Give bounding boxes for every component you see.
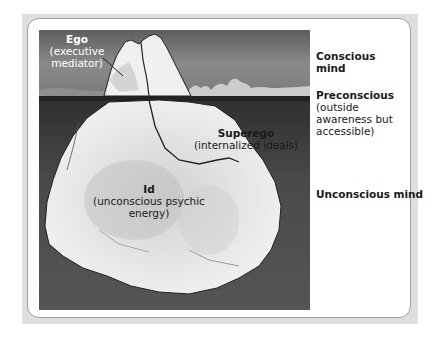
unconscious-mind-label: Unconscious mind: [316, 188, 426, 200]
iceberg-illustration: [39, 30, 310, 310]
superego-subtitle: (internalized ideals): [186, 139, 306, 151]
superego-label: Superego (internalized ideals): [186, 127, 306, 151]
unconscious-title: Unconscious mind: [316, 188, 426, 200]
conscious-mind-label: Conscious mind: [316, 50, 386, 74]
id-label: Id (unconscious psychic energy): [80, 183, 218, 219]
preconscious-label: Preconscious (outside awareness but acce…: [316, 89, 416, 137]
ego-label: Ego (executive mediator): [40, 33, 114, 69]
id-title: Id: [80, 183, 218, 195]
id-subtitle: (unconscious psychic energy): [80, 195, 218, 219]
ego-subtitle: (executive mediator): [40, 45, 114, 69]
preconscious-title: Preconscious: [316, 89, 416, 101]
preconscious-subtitle: (outside awareness but accessible): [316, 101, 416, 137]
conscious-title: Conscious mind: [316, 50, 386, 74]
superego-title: Superego: [186, 127, 306, 139]
ego-title: Ego: [40, 33, 114, 45]
